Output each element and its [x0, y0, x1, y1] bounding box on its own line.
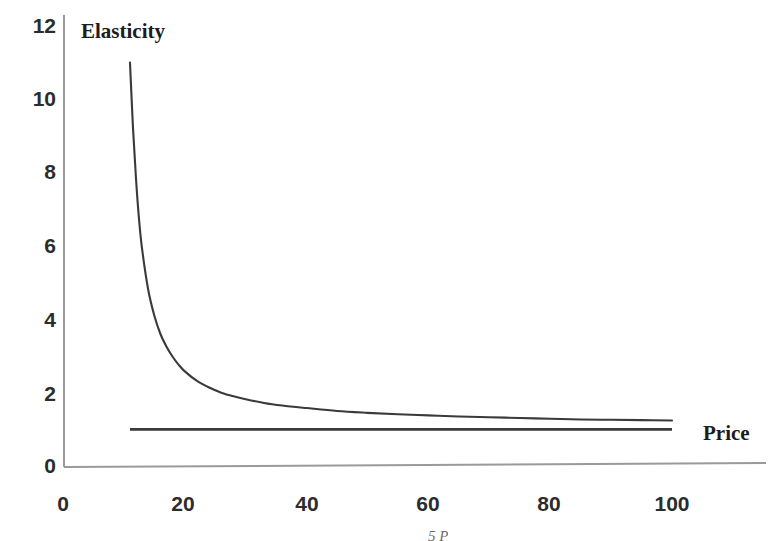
y-tick-label-2: 2 — [12, 382, 56, 406]
x-tick-label-20: 20 — [171, 492, 194, 516]
elasticity-curve — [130, 63, 672, 421]
y-tick-label-6: 6 — [12, 234, 56, 258]
bottom-formula-fragment: 5 P — [428, 528, 448, 541]
x-tick-label-100: 100 — [654, 492, 689, 516]
x-tick-label-40: 40 — [295, 492, 318, 516]
y-axis-title: Elasticity — [81, 19, 165, 44]
y-tick-label-0: 0 — [12, 454, 56, 478]
elasticity-price-chart: 12 10 8 6 4 2 0 0 20 40 60 80 100 Elasti… — [0, 0, 774, 541]
x-axis-title: Price — [703, 421, 750, 446]
x-tick-label-60: 60 — [416, 492, 439, 516]
y-tick-label-8: 8 — [12, 160, 56, 184]
x-tick-label-80: 80 — [537, 492, 560, 516]
y-tick-label-4: 4 — [12, 308, 56, 332]
y-tick-label-10: 10 — [12, 87, 56, 111]
x-tick-label-0: 0 — [57, 492, 69, 516]
chart-plot-area — [0, 0, 774, 541]
x-axis-line — [64, 463, 766, 467]
y-tick-label-12: 12 — [12, 14, 56, 38]
